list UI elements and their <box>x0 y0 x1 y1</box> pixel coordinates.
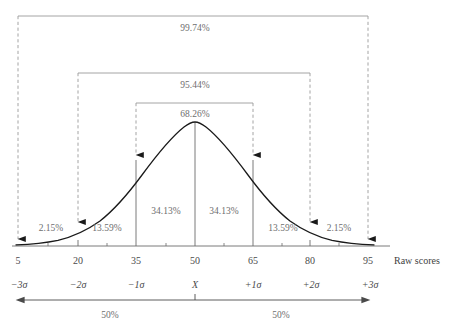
bracket-label-95-44: 95.44% <box>180 81 209 91</box>
raw-score-tick-50: 50 <box>190 256 200 266</box>
raw-score-tick-80: 80 <box>305 256 315 266</box>
bracket-label-99-74: 99.74% <box>180 24 209 34</box>
distribution-diagram-canvas <box>0 0 454 330</box>
raw-score-axis <box>12 243 390 246</box>
sigma-tick-plus-3: +3σ <box>362 280 379 290</box>
raw-score-tick-5: 5 <box>16 256 21 266</box>
band-label-right-inner: 34.13% <box>209 207 238 217</box>
half-label-left: 50% <box>101 311 118 321</box>
raw-score-tick-35: 35 <box>131 256 141 266</box>
sigma-tick-plus-2: +2σ <box>303 280 320 290</box>
raw-score-tick-65: 65 <box>248 256 258 266</box>
sigma-tick-mean: X <box>192 280 198 290</box>
sigma-tick-minus-2: −2σ <box>70 280 87 290</box>
raw-scores-axis-caption: Raw scores <box>394 256 440 266</box>
bracket-label-68-26: 68.26% <box>180 110 209 120</box>
band-label-left-inner: 34.13% <box>151 207 180 217</box>
fifty-percent-axis <box>24 294 362 300</box>
band-label-left-tail: 2.15% <box>39 224 64 234</box>
raw-score-tick-20: 20 <box>73 256 83 266</box>
normal-distribution-figure: 99.74% 95.44% 68.26% 2.15% 13.59% 34.13%… <box>0 0 454 330</box>
sigma-tick-plus-1: +1σ <box>245 280 262 290</box>
sigma-tick-minus-3: −3σ <box>11 280 28 290</box>
band-label-right-tail: 2.15% <box>327 224 352 234</box>
sigma-tick-minus-1: −1σ <box>128 280 145 290</box>
raw-score-tick-95: 95 <box>363 256 373 266</box>
band-label-left-outer: 13.59% <box>92 224 121 234</box>
band-label-right-outer: 13.59% <box>268 224 297 234</box>
half-label-right: 50% <box>272 311 289 321</box>
